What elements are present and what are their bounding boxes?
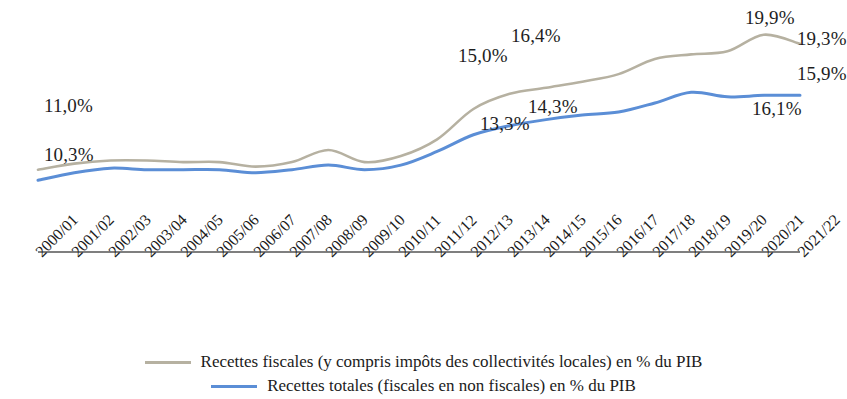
value-label: 19,9% [745, 7, 795, 29]
value-label: 15,9% [797, 63, 847, 85]
legend-label-recettes-totales: Recettes totales (fiscales en non fiscal… [267, 376, 636, 396]
value-label: 16,4% [511, 25, 561, 47]
value-label: 15,0% [458, 45, 508, 67]
line-swatch-icon-totales [211, 385, 257, 388]
value-label: 11,0% [44, 95, 93, 117]
chart-legend: Recettes fiscales (y compris impôts des … [0, 350, 847, 399]
value-label: 10,3% [44, 144, 94, 166]
legend-item-recettes-fiscales[interactable]: Recettes fiscales (y compris impôts des … [0, 350, 847, 374]
value-label: 14,3% [528, 96, 578, 118]
x-axis-tick-labels: 2000/012001/022002/032003/042004/052005/… [0, 248, 847, 343]
value-label: 13,3% [480, 113, 530, 135]
series-lines [38, 35, 800, 181]
value-label: 16,1% [752, 98, 802, 120]
legend-item-recettes-totales[interactable]: Recettes totales (fiscales en non fiscal… [0, 374, 847, 398]
value-label: 19,3% [797, 28, 847, 50]
line-swatch-icon-fiscales [145, 361, 191, 364]
legend-label-recettes-fiscales: Recettes fiscales (y compris impôts des … [201, 352, 703, 372]
series-line-recettes-fiscales [38, 35, 800, 170]
line-chart: 11,0%10,3%15,0%16,4%13,3%14,3%19,9%19,3%… [0, 0, 847, 399]
series-line-recettes-totales [38, 92, 800, 180]
